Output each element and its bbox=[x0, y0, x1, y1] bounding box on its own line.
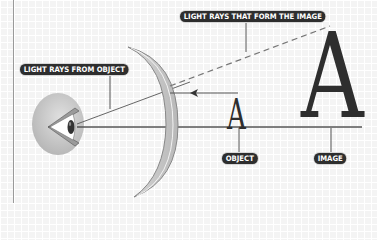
label-object: OBJECT bbox=[222, 153, 258, 164]
label-image: IMAGE bbox=[314, 153, 347, 164]
concave-mirror bbox=[128, 47, 178, 197]
mirror-diagram: A A LIGHT RAYS FROM OBJECT LIGHT RAYS TH… bbox=[0, 0, 377, 203]
label-light-rays-that-form-image: LIGHT RAYS THAT FORM THE IMAGE bbox=[180, 11, 326, 22]
image-letter: A bbox=[301, 18, 364, 136]
label-light-rays-from-object: LIGHT RAYS FROM OBJECT bbox=[20, 64, 129, 75]
object-letter: A bbox=[227, 94, 246, 136]
